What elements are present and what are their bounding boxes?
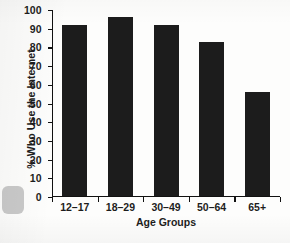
- plot-area: 0102030405060708090100: [52, 10, 280, 197]
- x-axis-title: Age Groups: [52, 216, 280, 228]
- y-tick-label: 0: [36, 191, 42, 203]
- y-tick-label: 20: [30, 154, 42, 166]
- scan-artifact-corner: [2, 186, 24, 214]
- y-tick-label: 10: [30, 172, 42, 184]
- x-tick-label: 65+: [248, 201, 266, 213]
- x-tick-label: 30–49: [151, 201, 180, 213]
- y-tick-label: 40: [30, 116, 42, 128]
- y-tick-label: 30: [30, 135, 42, 147]
- chart-figure: % Who Use the Internet 01020304050607080…: [0, 0, 290, 243]
- x-tick: [280, 197, 281, 202]
- bar: [154, 25, 179, 196]
- y-tick-label: 80: [30, 41, 42, 53]
- y-tick-label: 100: [24, 4, 42, 16]
- bar: [199, 42, 224, 196]
- y-tick-label: 90: [30, 23, 42, 35]
- bar: [108, 17, 133, 195]
- bar: [62, 25, 87, 196]
- x-axis-line: [52, 196, 280, 197]
- y-tick-label: 70: [30, 60, 42, 72]
- x-tick-label: 18–29: [106, 201, 135, 213]
- x-tick-label: 50–64: [197, 201, 226, 213]
- y-tick-label: 60: [30, 79, 42, 91]
- y-tick-label: 50: [30, 98, 42, 110]
- x-axis-tick-labels: 12–1718–2930–4950–6465+: [52, 201, 280, 215]
- bar: [245, 92, 270, 196]
- x-tick-label: 12–17: [60, 201, 89, 213]
- bar-series: [52, 10, 280, 196]
